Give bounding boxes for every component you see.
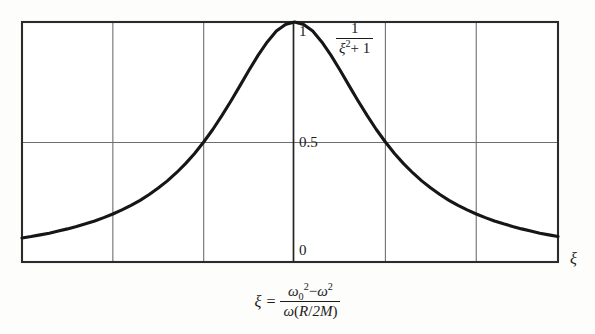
caption-lhs-xi: ξ bbox=[255, 293, 262, 311]
annotation-plus-one: + 1 bbox=[351, 40, 371, 56]
x-axis-label: ξ bbox=[570, 250, 577, 268]
caption-close-paren: ) bbox=[332, 303, 337, 319]
caption-omega-exponent: 2 bbox=[328, 281, 333, 292]
caption-numerator: ω02−ω2 bbox=[280, 283, 340, 300]
caption-omega-0: ω bbox=[288, 283, 299, 299]
annotation-numerator: 1 bbox=[336, 20, 373, 37]
caption-denominator-omega: ω bbox=[283, 303, 294, 319]
y-tick-label-0: 0 bbox=[299, 243, 307, 258]
y-tick-label-0.5: 0.5 bbox=[299, 135, 318, 150]
caption-equals-sign: = bbox=[266, 293, 275, 311]
figure-container: 1 0.5 0 ξ 1 ξ2+ 1 ξ = ω02−ω2 ω(R/2M) bbox=[0, 0, 595, 334]
caption-fraction: ω02−ω2 ω(R/2M) bbox=[280, 283, 340, 320]
annotation-denominator: ξ2+ 1 bbox=[336, 40, 373, 57]
curve-annotation: 1 ξ2+ 1 bbox=[336, 20, 373, 57]
caption-denominator: ω(R/2M) bbox=[280, 303, 340, 320]
annotation-fraction: 1 ξ2+ 1 bbox=[336, 20, 373, 57]
y-tick-label-1: 1 bbox=[299, 24, 307, 39]
caption-fraction-bar bbox=[280, 301, 340, 303]
caption-omega: ω bbox=[317, 283, 328, 299]
caption-omega-0-subscript: 0 bbox=[299, 291, 304, 302]
caption-2m-symbol: 2M bbox=[312, 303, 332, 319]
caption-formula: ξ = ω02−ω2 ω(R/2M) bbox=[0, 283, 595, 320]
caption-r-symbol: R bbox=[299, 303, 308, 319]
caption-minus-sign: − bbox=[309, 283, 317, 299]
caption-equation-row: ξ = ω02−ω2 ω(R/2M) bbox=[255, 283, 341, 320]
